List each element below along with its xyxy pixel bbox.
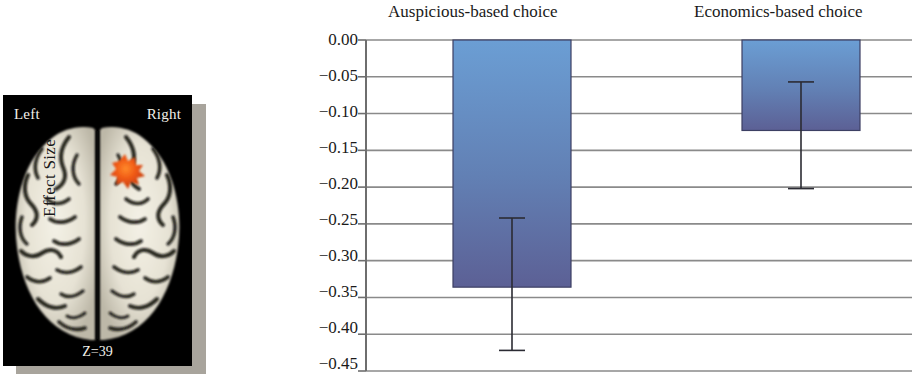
plot-area: [0, 0, 912, 378]
effect-size-bar-chart: Auspicious-based choice Economics-based …: [0, 0, 912, 378]
